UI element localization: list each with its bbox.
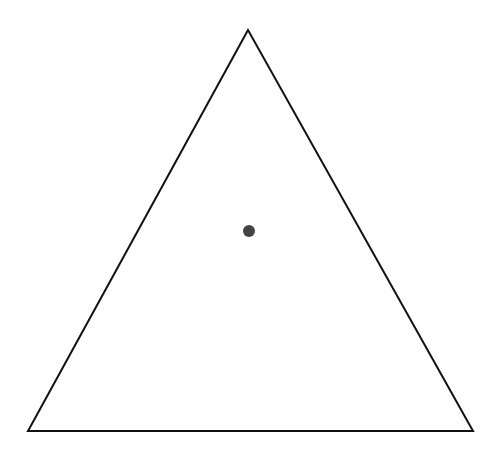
center-point: [243, 225, 255, 237]
diagram-canvas: [0, 0, 496, 458]
triangle-diagram: [0, 0, 496, 458]
